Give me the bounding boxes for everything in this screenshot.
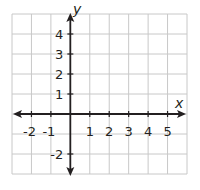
y-tick-label: 1: [55, 87, 63, 102]
y-tick-label: 2: [55, 67, 63, 82]
x-tick-label: 4: [144, 124, 152, 139]
y-tick-label: 3: [55, 47, 63, 62]
y-axis-label: y: [72, 1, 82, 17]
x-axis-label: x: [174, 95, 184, 111]
y-tick-label: 4: [55, 27, 63, 42]
x-tick-label: 1: [86, 124, 94, 139]
x-tick-label: 3: [125, 124, 133, 139]
x-tick-label: -1: [42, 124, 55, 139]
y-tick-label: -2: [50, 147, 63, 162]
x-tick-label: -2: [23, 124, 36, 139]
grid-lines: [12, 14, 187, 174]
x-tick-label: 2: [105, 124, 113, 139]
x-tick-label: 5: [163, 124, 171, 139]
coordinate-plane: -2-1123454321-2 x y: [0, 0, 200, 190]
